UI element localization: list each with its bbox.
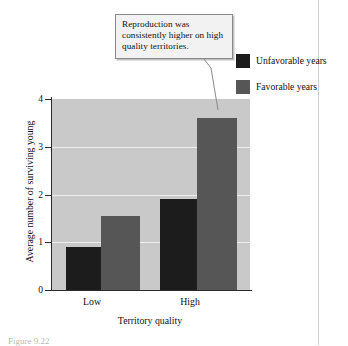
legend-swatch-favorable: [236, 80, 250, 94]
y-tick-3: [45, 147, 51, 148]
bar-low-favorable[interactable]: [101, 216, 140, 290]
y-tick-2: [45, 195, 51, 196]
y-tick-label-4: 4: [25, 93, 43, 104]
plot-area: [52, 99, 250, 290]
y-tick-4: [45, 99, 51, 100]
bar-high-unfavorable[interactable]: [160, 199, 197, 290]
y-tick-label-0: 0: [25, 284, 43, 295]
legend-label-unfavorable: Unfavorable years: [256, 55, 327, 66]
legend-swatch-unfavorable: [236, 54, 250, 68]
legend-label-favorable: Favorable years: [256, 81, 317, 92]
legend: Unfavorable years Favorable years: [236, 52, 327, 104]
x-tick-label-low: Low: [62, 296, 122, 307]
y-tick-0: [45, 290, 51, 291]
callout-text: Reproduction was consistently higher on …: [122, 19, 227, 53]
bar-low-unfavorable[interactable]: [66, 247, 101, 290]
y-axis-line: [51, 97, 52, 291]
callout-annotation: Reproduction was consistently higher on …: [115, 14, 233, 59]
x-axis-line: [51, 290, 252, 291]
x-axis-title: Territory quality: [0, 315, 300, 326]
x-tick-label-high: High: [160, 296, 220, 307]
bar-high-favorable[interactable]: [197, 118, 237, 290]
y-tick-1: [45, 242, 51, 243]
figure-caption: Figure 9.22: [8, 336, 50, 346]
legend-item-unfavorable[interactable]: Unfavorable years: [236, 52, 327, 69]
legend-item-favorable[interactable]: Favorable years: [236, 78, 327, 95]
y-axis-title: Average number of surviving young: [24, 107, 35, 277]
